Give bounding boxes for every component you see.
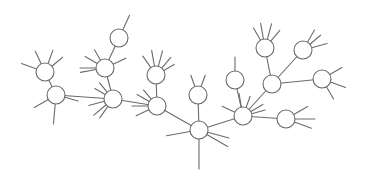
leaf-line [271,30,280,41]
node-L [256,39,274,57]
node-B [47,86,65,104]
leaf-line [167,132,191,136]
leaf-line [48,50,53,63]
node-H [189,86,207,104]
node-J [226,71,244,89]
leaf-line [330,82,345,87]
node-O [313,70,331,88]
leaf-line [294,107,308,115]
node-M [263,75,281,93]
leaf-line [294,122,311,128]
node-F [147,66,165,84]
leaf-line [143,56,151,67]
leaf-line [310,35,321,44]
leaf-line [80,70,96,73]
leaf-line [65,97,79,101]
leaf-line [100,83,108,92]
leaf-line [267,24,271,39]
node-A [36,63,54,81]
leaf-line [94,105,106,115]
leaf-line [330,68,342,75]
leaf-line [254,28,261,40]
leaf-line [246,96,250,107]
leaf-line [136,110,149,116]
tree-network-diagram [0,0,365,181]
node-E [104,90,122,108]
leaf-line [261,23,264,39]
leaf-line [222,106,235,112]
node-I [190,121,208,139]
node-P [277,110,295,128]
leaf-line [164,65,174,71]
leaf-line [52,57,63,66]
leaf-line [191,75,195,86]
leaf-line [53,104,55,124]
leaf-line [162,57,171,68]
node-D [110,29,128,47]
node-G [148,97,166,115]
leaf-line [22,63,37,68]
leaf-spokes-layer [22,15,346,169]
node-C [96,59,114,77]
leaf-line [123,15,130,30]
leaf-line [85,57,97,64]
leaf-line [252,110,266,114]
leaf-line [144,90,152,99]
leaf-line [158,51,162,66]
leaf-line [312,44,327,48]
node-K [234,107,252,125]
leaf-line [89,101,104,105]
leaf-line [152,50,155,66]
node-N [294,41,312,59]
leaf-line [327,87,334,99]
leaf-line [113,58,126,64]
leaf-line [308,30,315,42]
leaf-line [201,75,205,86]
leaf-line [100,106,108,117]
nodes-layer [36,29,331,139]
leaf-line [35,51,41,64]
leaf-line [137,95,149,102]
leaf-line [95,50,101,60]
leaf-line [34,100,48,108]
leaf-line [95,89,105,95]
